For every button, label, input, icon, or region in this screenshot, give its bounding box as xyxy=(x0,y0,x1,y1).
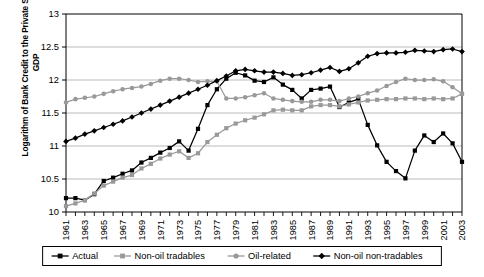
data-point xyxy=(450,141,454,145)
data-point xyxy=(205,140,209,144)
data-point xyxy=(233,96,238,101)
data-point xyxy=(413,78,418,83)
data-point xyxy=(450,96,454,100)
data-point xyxy=(347,96,352,101)
data-point xyxy=(177,139,181,143)
x-tick-label: 1985 xyxy=(288,220,298,240)
data-point xyxy=(120,87,125,92)
data-point xyxy=(403,76,408,81)
data-point xyxy=(130,86,135,91)
data-point xyxy=(375,98,379,102)
legend-label: Oil-related xyxy=(248,251,291,261)
data-point xyxy=(422,97,426,101)
data-point xyxy=(120,172,124,176)
x-tick-label: 1981 xyxy=(250,220,260,240)
data-point xyxy=(318,103,322,107)
data-point xyxy=(413,149,417,153)
x-tick-label: 1993 xyxy=(363,220,373,240)
data-point xyxy=(196,127,200,131)
data-point xyxy=(186,156,190,160)
legend-label: Non-oil tradables xyxy=(135,251,206,261)
data-point xyxy=(111,180,115,184)
data-point xyxy=(139,166,143,170)
data-point xyxy=(422,133,426,137)
x-tick-label: 1995 xyxy=(382,220,392,240)
data-point xyxy=(384,84,389,89)
data-point xyxy=(186,78,191,83)
data-point xyxy=(262,112,266,116)
legend-label: Non-oil non-tradables xyxy=(334,251,423,261)
data-point xyxy=(422,78,427,83)
data-point xyxy=(111,176,115,180)
data-point xyxy=(356,100,360,104)
data-point xyxy=(215,87,219,91)
data-point xyxy=(366,123,370,127)
data-point xyxy=(102,184,106,188)
data-point xyxy=(64,100,69,105)
data-point xyxy=(234,121,238,125)
data-point xyxy=(290,88,294,92)
data-point xyxy=(460,92,465,97)
x-tick-label: 1963 xyxy=(80,220,90,240)
x-tick-label: 1969 xyxy=(137,220,147,240)
data-point xyxy=(130,173,134,177)
chart-figure: Logarithm of Bank Credit to the Private … xyxy=(0,0,484,277)
data-point xyxy=(281,108,285,112)
data-point xyxy=(158,156,162,160)
data-point xyxy=(413,96,417,100)
x-tick-label: 1997 xyxy=(401,220,411,240)
data-point xyxy=(177,76,182,81)
x-tick-label: 1983 xyxy=(269,220,279,240)
y-tick-label: 10 xyxy=(49,206,59,217)
legend-label: Actual xyxy=(72,251,98,261)
data-point xyxy=(139,84,144,89)
data-point xyxy=(224,126,228,130)
data-point xyxy=(309,100,314,105)
data-point xyxy=(262,91,267,96)
data-point xyxy=(130,168,134,172)
y-tick-label: 12 xyxy=(49,74,59,85)
x-tick-label: 1991 xyxy=(344,220,354,240)
data-point xyxy=(271,96,276,101)
data-point xyxy=(441,79,446,84)
legend-marker-icon xyxy=(120,254,125,259)
data-point xyxy=(205,103,209,107)
data-point xyxy=(318,86,322,90)
data-point xyxy=(149,162,153,166)
data-point xyxy=(431,77,436,82)
data-point xyxy=(460,160,464,164)
data-point xyxy=(64,196,68,200)
data-point xyxy=(337,104,341,108)
data-point xyxy=(83,198,87,202)
data-point xyxy=(403,96,407,100)
y-tick-label: 11.5 xyxy=(41,107,59,118)
data-point xyxy=(120,176,124,180)
legend-marker-icon xyxy=(233,253,238,258)
data-point xyxy=(394,97,398,101)
data-point xyxy=(158,78,163,83)
data-point xyxy=(309,88,313,92)
data-point xyxy=(384,97,388,101)
data-point xyxy=(432,96,436,100)
data-point xyxy=(252,79,256,83)
data-point xyxy=(111,89,116,94)
data-point xyxy=(101,92,106,97)
data-point xyxy=(347,102,351,106)
data-point xyxy=(158,151,162,155)
data-point xyxy=(328,98,333,103)
data-point xyxy=(149,82,154,87)
x-tick-label: 2003 xyxy=(457,220,467,240)
legend-marker-icon xyxy=(58,254,63,259)
data-point xyxy=(196,151,200,155)
data-point xyxy=(271,75,275,79)
x-tick-label: 1999 xyxy=(420,220,430,240)
data-point xyxy=(92,191,96,195)
data-point xyxy=(92,94,97,99)
data-point xyxy=(375,88,380,93)
y-axis-ticks: 1010.51111.51212.513 xyxy=(41,8,66,217)
data-point xyxy=(224,96,229,101)
data-point xyxy=(243,118,247,122)
x-tick-label: 1967 xyxy=(118,220,128,240)
x-tick-label: 2001 xyxy=(439,220,449,240)
data-point xyxy=(281,98,286,103)
